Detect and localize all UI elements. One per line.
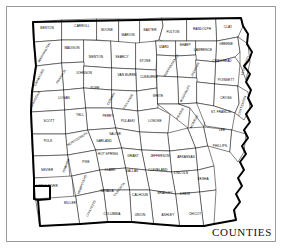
county-label: MADISON (64, 46, 80, 50)
county-label: PHILLIPS (213, 144, 227, 148)
county-label: CROSS (220, 96, 232, 100)
county-label: YELL (76, 113, 84, 117)
county-label: CALHOUN (132, 193, 149, 197)
county-label: BRADLEY (157, 191, 173, 195)
county-label: BAXTER (143, 28, 157, 32)
county-label: SEARCY (115, 55, 129, 59)
county-label: UNION (135, 213, 146, 217)
map-title: COUNTIES (212, 226, 272, 238)
county-label: NEVADA (100, 189, 114, 193)
county-label: SEVIER (41, 168, 54, 172)
county-label: LINCOLN (174, 171, 189, 175)
county-label: CRAIGHEAD (212, 59, 232, 63)
county-label: JEFFERSON (150, 154, 170, 158)
county-label: CLEBURNE (140, 75, 158, 79)
county-label: MILLER (64, 201, 76, 205)
county-label: POINSETT (218, 78, 234, 82)
county-label: LITTLE RIVER (36, 184, 58, 188)
county-label: CHICOT (189, 212, 202, 216)
county-label: COLUMBIA (103, 212, 121, 216)
county-label: CLEVELAND (148, 168, 168, 172)
county-label: CARROLL (74, 24, 90, 28)
county-label: IZARD (159, 45, 169, 49)
county-label: POLK (44, 139, 54, 143)
county-label: CLAY (224, 25, 233, 29)
map-page: BENTONCARROLLBOONEMARIONBAXTERFULTONRAND… (0, 0, 284, 249)
map-svg: BENTONCARROLLBOONEMARIONBAXTERFULTONRAND… (0, 0, 284, 249)
county-label: DREW (180, 192, 190, 196)
county-label: LONOKE (148, 119, 162, 123)
county-label: DESHA (197, 177, 209, 181)
county-label: BENTON (40, 26, 54, 30)
county-label: WHITE (153, 94, 164, 98)
county-label: MONROE (189, 114, 199, 129)
county-label: PIKE (82, 160, 89, 164)
county-label: LAWRENCE (194, 48, 212, 52)
county-label: GRANT (127, 154, 138, 158)
county-label: ST. FRANCIS (211, 110, 231, 114)
county-label: SCOTT (43, 119, 54, 123)
county-label: RANDOLPH (193, 27, 212, 31)
county-label: STONE (139, 59, 150, 63)
county-label: LEE (219, 128, 225, 132)
county-label: BOONE (101, 28, 113, 32)
county-label: SHARP (179, 43, 190, 47)
arkansas-county-map: BENTONCARROLLBOONEMARIONBAXTERFULTONRAND… (0, 0, 284, 249)
county-label: NEWTON (89, 55, 104, 59)
county-label: GREENE (219, 42, 233, 46)
county-label: SALINE (109, 132, 121, 136)
county-label: PULASKI (121, 119, 135, 123)
county-label: ASHLEY (162, 213, 176, 217)
county-label: VAN BUREN (118, 73, 137, 77)
county-label: DALLAS (126, 169, 139, 173)
county-label: GARLAND (96, 139, 112, 143)
county-label: LOGAN (58, 96, 70, 100)
county-label: POPE (90, 86, 99, 90)
county-label: FULTON (167, 30, 180, 34)
county-label: MARION (121, 33, 135, 37)
county-label: JOHNSON (76, 71, 93, 75)
county-label: HOT SPRING (98, 152, 119, 156)
county-label: PERRY (102, 114, 114, 118)
county-label: CLARK (105, 168, 117, 172)
county-label: ARKANSAS (177, 155, 195, 159)
